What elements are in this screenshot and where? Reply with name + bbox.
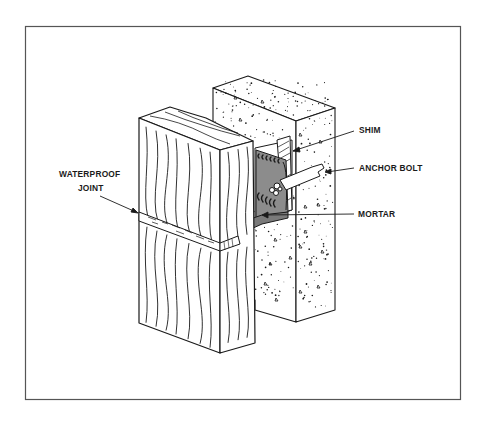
- speckle: [283, 281, 284, 282]
- speckle: [323, 258, 324, 259]
- speckle: [301, 102, 302, 103]
- speckle: [312, 124, 313, 125]
- speckle: [331, 292, 332, 293]
- speckle: [223, 112, 224, 113]
- speckle: [278, 295, 279, 296]
- speckle: [327, 99, 328, 100]
- speckle: [236, 105, 237, 106]
- speckle: [324, 124, 325, 125]
- speckle: [311, 99, 312, 100]
- speckle: [280, 239, 281, 240]
- speckle: [307, 150, 308, 151]
- speckle: [275, 109, 276, 110]
- speckle: [297, 82, 299, 84]
- speckle: [266, 120, 267, 121]
- speckle: [287, 98, 288, 99]
- speckle: [261, 259, 262, 260]
- speckle: [328, 163, 329, 164]
- speckle: [314, 280, 315, 281]
- speckle: [287, 106, 288, 107]
- speckle: [305, 93, 306, 94]
- speckle: [327, 200, 328, 201]
- speckle: [298, 261, 299, 262]
- speckle: [303, 189, 304, 190]
- speckle: [304, 295, 306, 297]
- speckle: [308, 248, 310, 250]
- speckle: [267, 119, 268, 120]
- speckle: [253, 114, 255, 116]
- speckle: [323, 205, 324, 206]
- speckle: [330, 224, 331, 225]
- speckle: [302, 86, 303, 87]
- speckle: [308, 139, 309, 140]
- speckle: [324, 208, 326, 210]
- speckle: [312, 104, 313, 105]
- speckle: [306, 283, 308, 285]
- speckle: [264, 106, 266, 108]
- speckle: [230, 84, 231, 85]
- speckle: [325, 258, 327, 260]
- speckle: [322, 103, 323, 104]
- speckle: [271, 93, 272, 94]
- speckle: [312, 225, 313, 226]
- speckle: [223, 94, 224, 95]
- speckle: [267, 133, 268, 134]
- speckle: [323, 246, 325, 248]
- speckle: [331, 120, 332, 121]
- speckle: [329, 167, 331, 169]
- speckle: [308, 286, 309, 287]
- speckle: [290, 276, 291, 277]
- speckle: [257, 277, 258, 278]
- speckle: [312, 295, 314, 297]
- speckle: [268, 255, 269, 256]
- speckle: [321, 239, 322, 240]
- speckle: [273, 90, 274, 91]
- speckle: [278, 101, 280, 103]
- speckle: [291, 247, 293, 249]
- speckle: [330, 290, 331, 291]
- speckle: [251, 115, 253, 117]
- speckle: [297, 101, 299, 103]
- speckle: [287, 92, 288, 93]
- speckle: [256, 129, 257, 130]
- speckle: [331, 115, 332, 116]
- speckle: [326, 194, 327, 195]
- speckle: [274, 289, 275, 290]
- speckle: [274, 229, 275, 230]
- speckle: [293, 287, 294, 288]
- speckle: [269, 82, 271, 84]
- speckle: [250, 136, 251, 137]
- speckle: [275, 86, 276, 87]
- diagram-canvas: SHIM ANCHOR BOLT MORTAR WATERPROOF JOINT: [0, 0, 483, 423]
- speckle: [265, 245, 267, 247]
- speckle: [315, 100, 316, 101]
- speckle: [275, 261, 276, 262]
- speckle: [288, 267, 290, 269]
- speckle: [316, 84, 317, 85]
- speckle: [248, 93, 249, 94]
- speckle: [273, 135, 274, 136]
- speckle: [318, 103, 319, 104]
- speckle: [221, 91, 222, 92]
- speckle: [251, 92, 252, 93]
- label-shim: SHIM: [359, 125, 381, 135]
- speckle: [326, 281, 328, 283]
- speckle: [255, 289, 257, 291]
- speckle: [309, 118, 311, 120]
- speckle: [317, 198, 319, 200]
- speckle: [319, 235, 320, 236]
- speckle: [280, 234, 281, 235]
- speckle: [251, 82, 253, 84]
- speckle: [310, 110, 311, 111]
- speckle: [329, 155, 330, 156]
- label-waterproof: WATERPROOF: [59, 169, 120, 179]
- speckle: [235, 91, 236, 92]
- speckle: [298, 211, 300, 213]
- speckle: [271, 274, 272, 275]
- speckle: [271, 292, 273, 294]
- speckle: [232, 105, 233, 106]
- speckle: [293, 195, 294, 196]
- speckle: [309, 110, 310, 111]
- speckle: [308, 188, 309, 189]
- speckle: [315, 186, 316, 187]
